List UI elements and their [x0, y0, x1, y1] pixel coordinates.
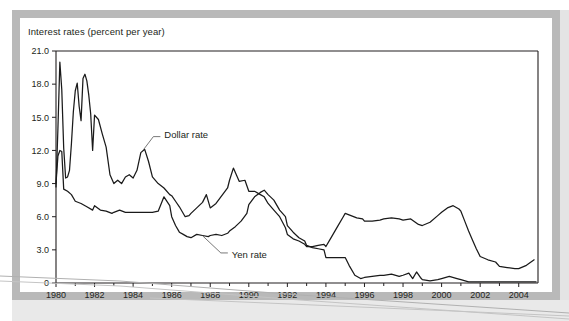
series-line-yen-rate: [56, 150, 536, 281]
y-tick-label: 12.0: [31, 146, 49, 156]
x-tick-label: 1982: [85, 290, 105, 300]
y-tick-label: 6.0: [36, 212, 49, 222]
axes-layer: 03.06.09.012.015.018.021.019801982198419…: [31, 46, 538, 300]
line-chart: 03.06.09.012.015.018.021.019801982198419…: [0, 0, 569, 321]
x-tick-label: 1980: [46, 290, 66, 300]
x-tick-label: 2000: [432, 290, 452, 300]
y-tick-label: 21.0: [31, 46, 49, 56]
y-tick-label: 9.0: [36, 179, 49, 189]
x-tick-label: 1988: [200, 290, 220, 300]
series-line-dollar-rate: [56, 62, 534, 269]
annotation-layer: Dollar rateYen rate: [144, 129, 267, 260]
annotation-label-yen-rate: Yen rate: [232, 249, 267, 260]
annotation-label-dollar-rate: Dollar rate: [164, 129, 208, 140]
y-tick-label: 18.0: [31, 79, 49, 89]
series-layer: [56, 62, 536, 282]
y-tick-label: 15.0: [31, 113, 49, 123]
x-tick-label: 2004: [509, 290, 529, 300]
figure-root: Interest rates (percent per year) 03.06.…: [0, 0, 569, 321]
x-tick-label: 1984: [123, 290, 143, 300]
x-tick-label: 1998: [393, 290, 413, 300]
x-tick-label: 1994: [316, 290, 336, 300]
x-tick-label: 2002: [470, 290, 490, 300]
y-tick-label: 3.0: [36, 245, 49, 255]
